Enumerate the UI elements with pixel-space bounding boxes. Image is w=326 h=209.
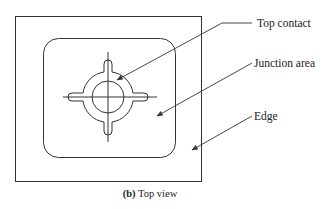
label-edge: Edge (254, 111, 278, 123)
leader-lines (117, 23, 252, 150)
junction-area-outline (44, 39, 176, 158)
diagram-canvas: Top contact Junction area Edge (b) Top v… (0, 0, 326, 209)
label-junction-area: Junction area (254, 58, 315, 70)
label-top-contact: Top contact (257, 18, 311, 30)
caption-text: Top view (136, 188, 178, 199)
top-view-diagram (0, 0, 326, 209)
top-contact-leader (117, 23, 252, 80)
figure-caption: (b) Top view (0, 188, 300, 199)
caption-prefix: (b) (123, 188, 136, 199)
junction-area-leader (157, 63, 252, 116)
